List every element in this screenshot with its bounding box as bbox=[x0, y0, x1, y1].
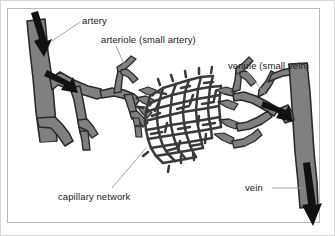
leader-capillary bbox=[112, 148, 146, 188]
leader-arteriole bbox=[116, 46, 125, 66]
label-arteriole: arteriole (small artery) bbox=[101, 35, 196, 45]
blood-vessel-diagram: artery arteriole (small artery) venule (… bbox=[0, 0, 335, 236]
label-vein: vein bbox=[245, 183, 263, 193]
label-capillary-network: capillary network bbox=[58, 192, 130, 202]
leader-artery bbox=[52, 22, 80, 41]
label-artery: artery bbox=[82, 16, 107, 26]
label-venule: venule (small vein) bbox=[228, 61, 309, 71]
capillary-network-mesh bbox=[136, 67, 221, 172]
artery-branch bbox=[50, 72, 106, 150]
arteriole-vessel bbox=[100, 56, 156, 137]
